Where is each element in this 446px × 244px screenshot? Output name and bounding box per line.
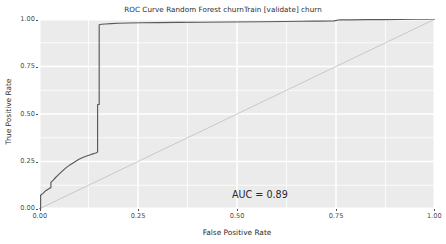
chart-title: ROC Curve Random Forest churnTrain [vali… [0,5,446,14]
x-tickmark-0 [40,209,41,211]
y-tickmark-1 [36,162,38,163]
x-tickmark-2 [237,209,238,211]
x-axis-tick-labels: 0.00 0.25 0.50 0.75 1.00 [39,212,435,222]
x-tickmark-4 [434,209,435,211]
y-axis-title: True Positive Rate [4,14,13,210]
y-tickmark-3 [36,67,38,68]
x-axis-title: False Positive Rate [39,228,435,237]
x-tick-label-4: 1.00 [427,212,442,220]
x-tick-label-3: 0.75 [329,212,344,220]
y-tickmark-0 [36,209,38,210]
roc-chart: ROC Curve Random Forest churnTrain [vali… [0,0,446,244]
auc-annotation: AUC = 0.89 [232,189,288,200]
x-tickmark-3 [336,209,337,211]
y-tickmark-2 [36,114,38,115]
x-tick-label-1: 0.25 [131,212,146,220]
x-tick-label-0: 0.00 [32,212,47,220]
x-tickmark-1 [138,209,139,211]
plot-area [39,19,435,209]
y-tickmark-4 [36,20,38,21]
x-tick-label-2: 0.50 [230,212,245,220]
plot-panel [39,19,435,209]
